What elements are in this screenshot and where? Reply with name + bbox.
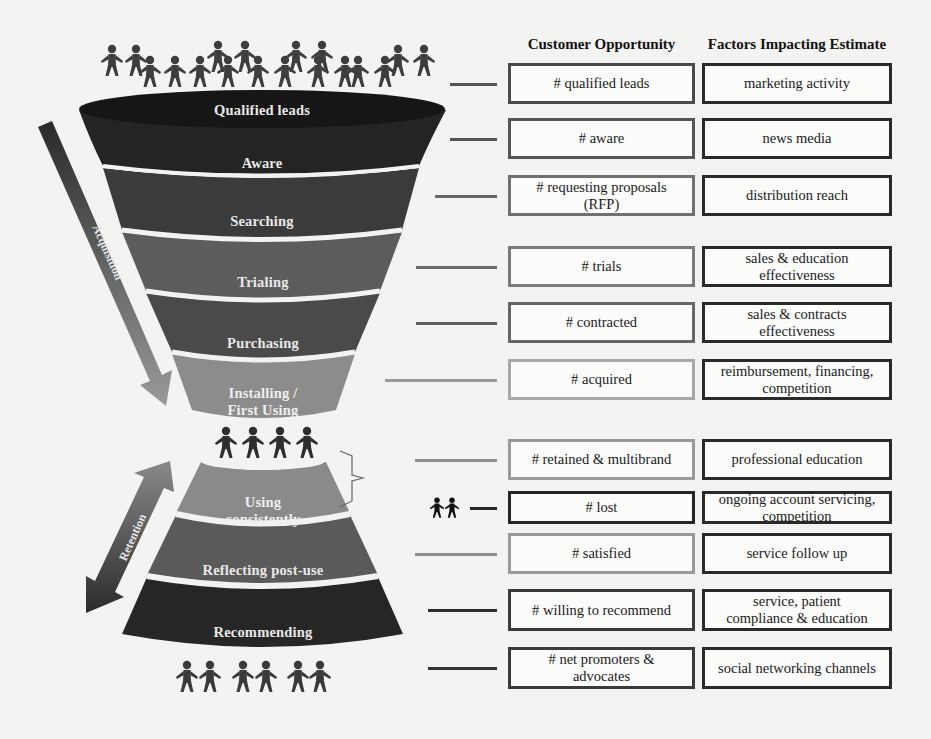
stage-label-using-consistently: Using consistently <box>226 494 301 528</box>
people-icon-lost <box>430 498 459 518</box>
stage-label-searching: Searching <box>230 213 294 230</box>
factor-text: reimbursement, financing, competition <box>721 363 874 397</box>
connector-line <box>385 379 497 382</box>
connector-line <box>415 459 497 462</box>
opportunity-text: # acquired <box>571 371 632 388</box>
header-factors-impacting-estimate: Factors Impacting Estimate <box>700 36 894 53</box>
factor-text: ongoing account servicing, competition <box>719 491 876 525</box>
factor-text: sales & education effectiveness <box>745 250 848 284</box>
factor-box: ongoing account servicing, competition <box>702 491 892 524</box>
opportunity-box: # trials <box>508 246 695 287</box>
retention-bracket <box>340 451 363 507</box>
factor-box: service, patient compliance & education <box>702 589 892 631</box>
opportunity-text: # qualified leads <box>554 75 650 92</box>
opportunity-text: # retained & multibrand <box>532 451 672 468</box>
factor-text: distribution reach <box>746 187 848 204</box>
factor-box: professional education <box>702 439 892 480</box>
connector-line <box>415 553 497 556</box>
connector-line <box>450 83 497 86</box>
connector-line <box>428 667 497 670</box>
people-icon-bottom <box>176 661 331 692</box>
opportunity-box: # willing to recommend <box>508 589 695 631</box>
factor-text: professional education <box>732 451 863 468</box>
opportunity-text: # net promoters & advocates <box>549 651 655 685</box>
factor-box: reimbursement, financing, competition <box>702 359 892 400</box>
stage-label-installing: Installing / First Using <box>227 385 298 419</box>
opportunity-box: # satisfied <box>508 533 695 574</box>
connector-line <box>416 322 497 325</box>
opportunity-box: # acquired <box>508 359 695 400</box>
opportunity-text: # aware <box>579 130 624 147</box>
opportunity-box: # requesting proposals (RFP) <box>508 175 695 216</box>
connector-line <box>416 266 497 269</box>
factor-box: sales & contracts effectiveness <box>702 302 892 343</box>
stage-label-qualified-leads: Qualified leads <box>214 102 310 119</box>
opportunity-box: # net promoters & advocates <box>508 647 695 689</box>
opportunity-box: # retained & multibrand <box>508 439 695 480</box>
opportunity-text: # trials <box>582 258 622 275</box>
stage-label-trialing: Trialing <box>237 274 288 291</box>
opportunity-text: # lost <box>586 499 618 516</box>
opportunity-text: # satisfied <box>572 545 631 562</box>
factor-box: marketing activity <box>702 63 892 104</box>
header-customer-opportunity: Customer Opportunity <box>508 36 695 53</box>
opportunity-text: # willing to recommend <box>532 602 671 619</box>
connector-line <box>428 609 497 612</box>
factor-text: service follow up <box>747 545 848 562</box>
factor-text: marketing activity <box>744 75 850 92</box>
opportunity-text: # contracted <box>566 314 637 331</box>
opportunity-box: # qualified leads <box>508 63 695 104</box>
factor-box: sales & education effectiveness <box>702 246 892 287</box>
factor-text: sales & contracts effectiveness <box>747 306 846 340</box>
opportunity-box: # lost <box>508 491 695 524</box>
factor-text: service, patient compliance & education <box>726 593 868 627</box>
connector-line <box>450 138 497 141</box>
stage-label-reflecting: Reflecting post-use <box>203 562 324 579</box>
factor-text: news media <box>763 130 832 147</box>
stage-label-recommending: Recommending <box>213 624 312 641</box>
connector-line <box>435 195 497 198</box>
opportunity-box: # contracted <box>508 302 695 343</box>
connector-line <box>470 507 497 510</box>
stage-label-aware: Aware <box>242 155 283 172</box>
factor-box: news media <box>702 118 892 159</box>
opportunity-text: # requesting proposals (RFP) <box>536 179 666 213</box>
stage-label-purchasing: Purchasing <box>227 335 299 352</box>
factor-text: social networking channels <box>718 660 876 677</box>
factor-box: service follow up <box>702 533 892 574</box>
customer-funnel-diagram: Qualified leads Aware Searching Trialing… <box>0 0 931 739</box>
factor-box: social networking channels <box>702 647 892 689</box>
factor-box: distribution reach <box>702 175 892 216</box>
people-icon-top-crowd <box>101 41 435 87</box>
opportunity-box: # aware <box>508 118 695 159</box>
